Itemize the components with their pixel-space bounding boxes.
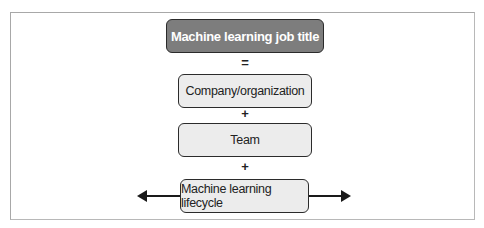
team-box: Team xyxy=(178,123,312,157)
ml-lifecycle-label: Machine learning lifecycle xyxy=(181,182,308,210)
team-label: Team xyxy=(230,133,259,147)
arrow-left-line xyxy=(145,195,180,197)
job-title-label: Machine learning job title xyxy=(171,29,319,44)
job-title-box: Machine learning job title xyxy=(166,19,324,53)
plus-operator-2: + xyxy=(235,159,255,174)
ml-lifecycle-box: Machine learning lifecycle xyxy=(180,179,309,213)
arrow-right-line xyxy=(309,195,343,197)
company-organization-label: Company/organization xyxy=(185,84,304,98)
company-organization-box: Company/organization xyxy=(178,74,312,108)
plus-operator-1: + xyxy=(235,106,255,121)
equals-operator: = xyxy=(235,55,255,70)
arrow-right-head-icon xyxy=(341,190,351,202)
